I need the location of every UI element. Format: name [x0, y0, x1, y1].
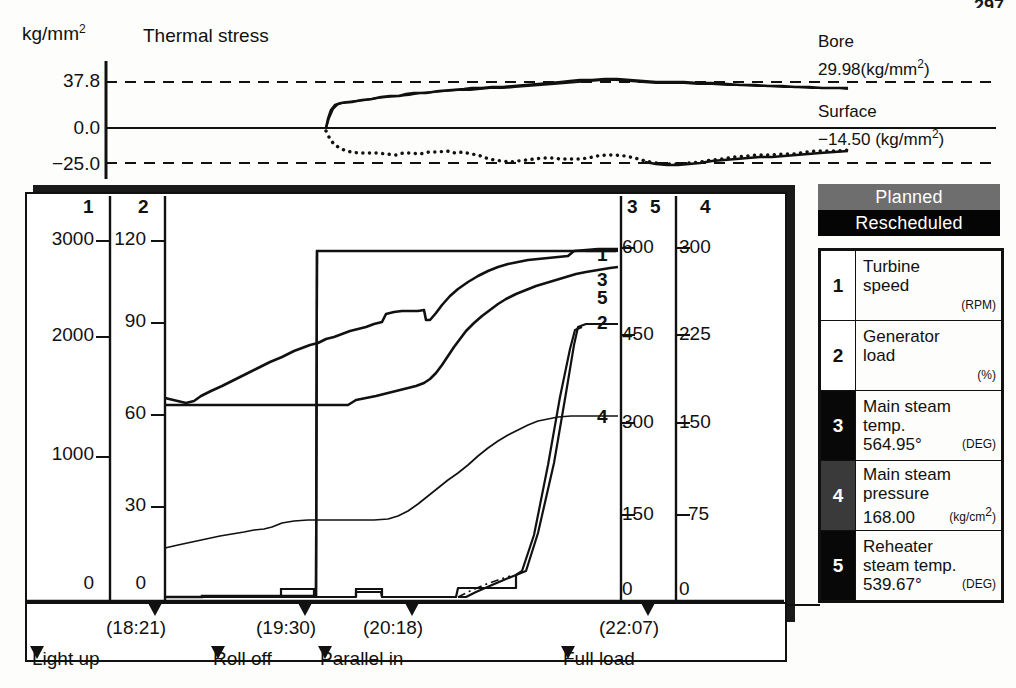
axis2-tick-0: 0 — [90, 572, 146, 594]
surface-unit-open: (kg/mm — [870, 130, 931, 149]
surface-readout: Surface −14.50 (kg/mm2) — [818, 100, 944, 151]
legend-unit-text-4: (kg/cm — [949, 510, 985, 524]
legend-band-planned: Planned — [818, 184, 1000, 210]
stress-ytick-00: 0.0 — [22, 117, 100, 139]
legend-line3-3: 564.95° — [863, 435, 922, 454]
curve-label-5: 5 — [597, 287, 608, 309]
axis1-tick-2000: 2000 — [32, 324, 94, 346]
table-row[interactable]: 5 Reheater steam temp. 539.67° (DEG) — [821, 531, 1002, 601]
bore-readout: Bore 29.98(kg/mm2) — [818, 30, 930, 81]
axis4-tick-225: 225 — [679, 323, 711, 345]
axis1-tick-0: 0 — [32, 572, 94, 594]
surface-unit-sup: 2 — [932, 127, 939, 141]
axis-header-2: 2 — [138, 196, 149, 218]
legend-unit-3: (DEG) — [962, 435, 996, 454]
legend-index-3: 3 — [821, 391, 856, 461]
legend-band-rescheduled: Rescheduled — [818, 210, 1000, 236]
legend-unit-1: (RPM) — [863, 296, 996, 315]
stress-ytick-378: 37.8 — [22, 70, 100, 92]
legend-body-3: Main steam temp. 564.95° (DEG) — [856, 391, 1002, 461]
curve-label-4: 4 — [597, 406, 608, 428]
axis35-tick-600: 600 — [622, 236, 654, 258]
table-row[interactable]: 3 Main steam temp. 564.95° (DEG) — [821, 391, 1002, 461]
legend-body-2: Generator load (%) — [856, 321, 1002, 391]
legend-line1-1: Turbine — [863, 257, 996, 276]
table-row[interactable]: 1 Turbine speed (RPM) — [821, 251, 1002, 321]
legend-body-5: Reheater steam temp. 539.67° (DEG) — [856, 531, 1002, 601]
axis2-tick-90: 90 — [90, 310, 146, 332]
legend-index-5: 5 — [821, 531, 856, 601]
stress-unit-text: kg/mm — [22, 23, 79, 44]
table-row[interactable]: 2 Generator load (%) — [821, 321, 1002, 391]
event-time-1: (19:30) — [256, 617, 316, 639]
legend-index-4: 4 — [821, 461, 856, 531]
page-number: 297 — [974, 0, 1004, 8]
legend-unit-2: (%) — [863, 366, 996, 385]
bore-value-row: 29.98(kg/mm2) — [818, 53, 930, 81]
legend-connector — [786, 600, 826, 610]
axis-header-4: 4 — [700, 196, 711, 218]
legend-line1-4: Main steam — [863, 465, 996, 484]
event-name-1: Roll off — [213, 648, 272, 670]
bore-value: 29.98 — [818, 60, 861, 79]
legend-line2-5: steam temp. — [863, 556, 996, 575]
axis2-tick-60: 60 — [90, 402, 146, 424]
axis-header-5: 5 — [650, 196, 661, 218]
legend-line1-2: Generator — [863, 327, 996, 346]
stress-ytick-neg250: −25.0 — [14, 153, 100, 175]
legend-unit-4: (kg/cm2) — [949, 503, 996, 527]
legend-index-2: 2 — [821, 321, 856, 391]
surface-value-row: −14.50 (kg/mm2) — [818, 123, 944, 151]
table-row[interactable]: 4 Main steam pressure 168.00 (kg/cm2) — [821, 461, 1002, 531]
surface-unit-close: ) — [939, 130, 945, 149]
curve-label-2: 2 — [597, 312, 608, 334]
legend-table: 1 Turbine speed (RPM) 2 Generator load (… — [818, 248, 1004, 603]
legend-unit-sup-4: 2 — [985, 505, 992, 519]
surface-label: Surface — [818, 100, 944, 123]
axis-header-3: 3 — [627, 196, 638, 218]
surface-value: −14.50 — [818, 130, 870, 149]
axis4-tick-300: 300 — [679, 236, 711, 258]
axis2-tick-30: 30 — [90, 494, 146, 516]
event-time-3: (22:07) — [599, 617, 659, 639]
legend-index-1: 1 — [821, 251, 856, 321]
legend-line1-3: Main steam — [863, 397, 996, 416]
event-name-0: Light up — [32, 648, 100, 670]
legend-line3-5: 539.67° — [863, 575, 922, 594]
legend-unit-5: (DEG) — [962, 575, 996, 594]
bore-unit-open: (kg/mm — [861, 60, 918, 79]
stress-unit-label: kg/mm2 — [22, 22, 86, 45]
legend-line2-3: temp. — [863, 416, 996, 435]
stress-chart-title: Thermal stress — [143, 25, 269, 47]
event-name-2: Parallel in — [320, 648, 403, 670]
legend-line2-1: speed — [863, 276, 996, 295]
bore-label: Bore — [818, 30, 930, 53]
legend-line2-2: load — [863, 346, 996, 365]
axis4-tick-150: 150 — [679, 411, 711, 433]
bore-unit-sup: 2 — [917, 57, 924, 71]
axis4-tick-0: 0 — [679, 578, 690, 600]
curve-label-1: 1 — [597, 244, 608, 266]
axis35-tick-0: 0 — [622, 578, 633, 600]
legend-body-1: Turbine speed (RPM) — [856, 251, 1002, 321]
axis1-tick-1000: 1000 — [32, 443, 94, 465]
axis2-tick-120: 120 — [90, 228, 146, 250]
legend-body-4: Main steam pressure 168.00 (kg/cm2) — [856, 461, 1002, 531]
event-time-2: (20:18) — [363, 617, 423, 639]
axis4-tick-75: 75 — [688, 503, 709, 525]
axis35-tick-450: 450 — [622, 323, 654, 345]
axis35-tick-300: 300 — [622, 411, 654, 433]
event-time-0: (18:21) — [106, 617, 166, 639]
legend-line2-4: pressure — [863, 484, 996, 503]
legend-line3-4: 168.00 — [863, 508, 915, 527]
figure-root: 297 kg/mm2 Thermal stress 37.8 0.0 −25.0 — [0, 0, 1016, 688]
stress-unit-sup: 2 — [79, 22, 86, 36]
axis35-tick-150: 150 — [622, 503, 654, 525]
bore-unit-close: ) — [924, 60, 930, 79]
event-name-3: Full load — [563, 648, 635, 670]
axis1-tick-3000: 3000 — [32, 228, 94, 250]
axis-header-1: 1 — [83, 196, 94, 218]
legend-line1-5: Reheater — [863, 537, 996, 556]
